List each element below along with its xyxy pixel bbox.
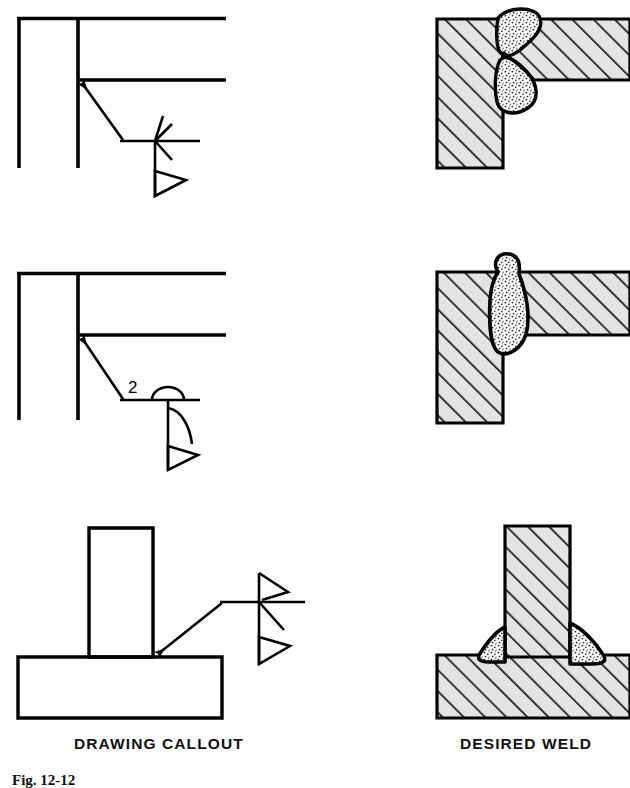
row-2-weld-bead [490,254,528,354]
row-3-base-plate [18,657,222,718]
row-2-desired-weld [437,254,630,423]
row-1-weld-vertical-member [437,19,503,168]
row-3-desired-weld [437,526,630,718]
row-3-arrow-side-flare-bevel-icon [259,602,284,630]
row-2-field-weld-flag-icon [168,446,198,470]
row-3-weld-vertical-member [505,526,570,657]
row-1-field-weld-flag-icon [155,171,186,196]
row-2-leader-arrow [82,338,123,399]
row-3-drawing-callout [18,528,305,718]
figure-drawing-canvas [0,0,630,788]
row-3-vertical-member [89,528,153,657]
row-3-other-side-flare-bevel-icon [259,573,288,600]
row-2-drawing-callout [17,272,226,470]
row-2-arrow-side-flare-bevel-icon [168,408,192,444]
row-3-weld-bead-left [479,627,505,662]
row-3-weld-bead-right [570,623,605,664]
row-3-field-weld-flag-icon [259,637,290,664]
row-2-convex-contour-icon [152,387,184,400]
welding-symbol-figure: DRAWING CALLOUT DESIRED WELD Fig. 12-12 … [0,0,630,788]
row-1-desired-weld [437,9,630,168]
row-1-drawing-callout [17,17,226,197]
row-1-leader-arrow [82,83,123,140]
row-3-leader-arrow [158,603,222,654]
row-1-arrow-side-flare-bevel-icon [155,141,172,160]
